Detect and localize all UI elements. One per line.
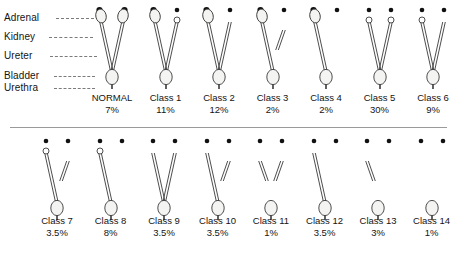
specimen-artwork <box>246 0 300 92</box>
specimen-artwork <box>353 0 407 92</box>
bladder-shape <box>266 69 278 84</box>
adrenal-dot <box>388 8 393 13</box>
ureter-line <box>164 22 175 72</box>
ureter-line <box>209 22 220 72</box>
ureter-line <box>263 22 274 72</box>
label-bladder: Bladder <box>4 70 40 81</box>
specimen-artwork <box>405 131 457 215</box>
ureter-line <box>47 153 58 203</box>
specimen-class-6: Class 69% <box>406 0 457 118</box>
kidney-shape <box>201 8 214 24</box>
adrenal-dot <box>366 8 371 13</box>
ureter-line <box>167 22 178 72</box>
ureter-line <box>381 22 392 72</box>
leader-line-ureter <box>50 56 97 57</box>
kidney-shape <box>148 8 161 24</box>
adrenal-dot <box>119 139 124 144</box>
adrenal-dot <box>440 139 445 144</box>
adrenal-dot <box>204 139 209 144</box>
specimen-diagram <box>85 0 139 92</box>
ureter-line <box>370 22 381 72</box>
specimen-caption: Class 69% <box>400 92 457 115</box>
ureter-line <box>101 153 112 203</box>
kidney-shape-hypoplastic <box>388 17 394 23</box>
adrenal-dot <box>335 8 340 13</box>
specimen-name: Class 14 <box>399 215 457 227</box>
ureter-line <box>111 22 122 72</box>
bladder-shape <box>425 200 437 215</box>
leader-line-urethra <box>54 88 95 89</box>
specimen-artwork <box>139 0 193 92</box>
leader-line-bladder <box>54 76 95 77</box>
specimen-caption: Class 141% <box>399 215 457 238</box>
adrenal-dot <box>311 139 316 144</box>
label-urethra: Urethra <box>4 82 39 93</box>
specimen-artwork <box>30 131 84 215</box>
ureter-line <box>367 22 378 72</box>
specimen-class-14: Class 141% <box>405 131 457 257</box>
specimen-artwork <box>137 131 191 215</box>
ureter-line <box>152 153 163 203</box>
specimen-diagram <box>191 131 245 223</box>
specimen-class-7: Class 73.5% <box>30 131 84 257</box>
adrenal-dot <box>173 139 178 144</box>
kidney-shape <box>94 8 107 24</box>
specimen-diagram <box>298 131 352 223</box>
specimen-diagram <box>246 0 300 92</box>
bladder-shape <box>159 69 171 84</box>
ureter-line <box>102 22 113 72</box>
specimen-artwork <box>244 131 298 215</box>
adrenal-dot <box>44 139 49 144</box>
specimen-diagram <box>84 131 138 223</box>
ureter-line <box>153 22 164 72</box>
label-adrenal: Adrenal <box>4 12 40 23</box>
adrenal-dot <box>365 139 370 144</box>
specimen-diagram <box>139 0 193 92</box>
ureter-line <box>218 22 229 72</box>
ureter-line <box>100 22 111 72</box>
kidney-shape-hypoplastic <box>419 17 425 23</box>
specimen-artwork <box>298 131 352 215</box>
kidney-shape <box>308 8 321 24</box>
kidney-shape <box>255 8 268 24</box>
specimen-artwork <box>299 0 353 92</box>
ureter-line <box>315 153 326 203</box>
kidney-shape-hypoplastic <box>43 148 49 154</box>
bladder-shape <box>213 69 225 84</box>
label-ureter: Ureter <box>4 50 33 61</box>
specimen-diagram <box>30 131 84 223</box>
adrenal-dot <box>420 8 425 13</box>
specimen-diagram <box>405 131 457 223</box>
adrenal-dot <box>97 139 102 144</box>
specimen-name: Class 6 <box>400 92 457 104</box>
adrenal-dot <box>418 139 423 144</box>
specimen-row-2: Class 73.5%Class 88%Class 93.5%Class 103… <box>0 131 457 257</box>
ureter-line <box>432 22 443 72</box>
renal-classification-figure: Adrenal Kidney Ureter Bladder Urethra NO… <box>0 0 457 257</box>
leader-line-adrenal <box>56 18 94 19</box>
bladder-shape <box>158 200 170 215</box>
specimen-diagram <box>299 0 353 92</box>
adrenal-dot <box>281 8 286 13</box>
adrenal-dot <box>442 8 447 13</box>
leader-line-kidney <box>49 37 93 38</box>
specimen-percent: 1% <box>399 227 457 239</box>
ureter-line <box>421 22 432 72</box>
bladder-shape <box>211 200 223 215</box>
bladder-shape <box>104 200 116 215</box>
adrenal-dot <box>66 139 71 144</box>
specimen-diagram <box>244 131 298 223</box>
specimen-diagram <box>137 131 191 223</box>
ureter-line <box>163 153 174 203</box>
ureter-line <box>45 153 56 203</box>
specimen-diagram <box>192 0 246 92</box>
specimen-class-10: Class 103.5% <box>191 131 245 257</box>
kidney-shape-hypoplastic <box>366 17 372 23</box>
bladder-shape <box>265 200 277 215</box>
ureter-line <box>314 22 325 72</box>
specimen-artwork <box>192 0 246 92</box>
adrenal-dot <box>151 139 156 144</box>
specimen-class-1: Class 111% <box>139 0 193 118</box>
specimen-artwork <box>84 131 138 215</box>
ureter-line <box>207 22 218 72</box>
